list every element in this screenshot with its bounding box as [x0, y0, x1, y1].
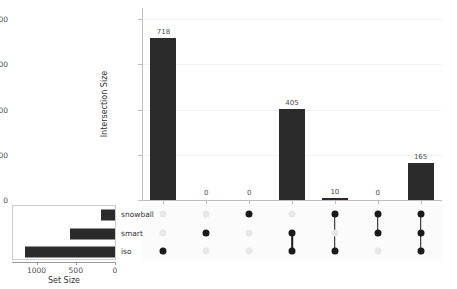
- matrix-dot-empty: [331, 229, 338, 236]
- set-name-label: snowball: [121, 210, 154, 219]
- set-size-tick-label: 500: [56, 266, 96, 275]
- matrix-dot-filled: [160, 247, 167, 254]
- set-size-tick-mark: [115, 262, 116, 265]
- set-name-label: iso: [121, 246, 132, 255]
- matrix-dot-filled: [374, 211, 381, 218]
- intersection-bar-value-label: 0: [186, 189, 226, 197]
- set-size-axis-title: Set Size: [4, 276, 124, 285]
- set-size-bar: [25, 246, 115, 257]
- gridline: [142, 19, 442, 20]
- y-tick-label: 600: [0, 60, 8, 69]
- matrix-dot-filled: [203, 229, 210, 236]
- matrix-dot-empty: [246, 229, 253, 236]
- x-tick-mark: [206, 200, 207, 204]
- matrix-dot-empty: [160, 211, 167, 218]
- gridline: [142, 64, 442, 65]
- matrix-dot-filled: [331, 247, 338, 254]
- matrix-dot-filled: [289, 229, 296, 236]
- matrix-dot-filled: [331, 211, 338, 218]
- intersection-bar: [279, 109, 305, 200]
- intersection-bar-value-label: 405: [272, 99, 312, 107]
- matrix-dot-empty: [203, 247, 210, 254]
- x-tick-mark: [335, 200, 336, 204]
- set-size-tick-mark: [37, 262, 38, 265]
- set-size-chart: [12, 205, 116, 260]
- matrix-dot-filled: [417, 211, 424, 218]
- x-tick-mark: [249, 200, 250, 204]
- x-tick-mark: [378, 200, 379, 204]
- matrix-dot-empty: [374, 247, 381, 254]
- set-size-bar: [101, 210, 115, 221]
- matrix-dot-filled: [417, 247, 424, 254]
- x-tick-mark: [163, 200, 164, 204]
- set-size-tick-label: 1000: [17, 266, 57, 275]
- set-size-tick-label: 0: [95, 266, 135, 275]
- intersection-bar-value-label: 10: [315, 188, 355, 196]
- y-axis-title: Intersection Size: [100, 71, 109, 138]
- y-tick-label: 400: [0, 105, 8, 114]
- matrix-dot-empty: [160, 229, 167, 236]
- matrix-dot-filled: [417, 229, 424, 236]
- set-size-bar: [70, 228, 116, 239]
- matrix-dot-empty: [289, 211, 296, 218]
- set-size-axis-line: [12, 262, 116, 263]
- y-tick-label: 800: [0, 15, 8, 24]
- x-tick-mark: [421, 200, 422, 204]
- y-axis-line: [142, 8, 143, 200]
- matrix-dot-empty: [246, 247, 253, 254]
- y-tick-label: 0: [0, 196, 8, 205]
- matrix-dot-filled: [289, 247, 296, 254]
- intersection-bar-value-label: 0: [358, 189, 398, 197]
- x-tick-mark: [292, 200, 293, 204]
- set-size-tick-mark: [76, 262, 77, 265]
- set-name-label: smart: [121, 228, 143, 237]
- intersection-matrix: [142, 205, 442, 260]
- intersection-bar-value-label: 0: [229, 189, 269, 197]
- matrix-dot-filled: [246, 211, 253, 218]
- matrix-dot-empty: [203, 211, 210, 218]
- intersection-bar-value-label: 718: [143, 28, 183, 36]
- upset-plot: Intersection Size 0200400600800 71800405…: [0, 0, 457, 289]
- y-tick-label: 200: [0, 150, 8, 159]
- intersection-bar: [408, 163, 434, 200]
- matrix-dot-filled: [374, 229, 381, 236]
- intersection-bar-value-label: 165: [401, 153, 441, 161]
- intersection-bar: [150, 38, 176, 200]
